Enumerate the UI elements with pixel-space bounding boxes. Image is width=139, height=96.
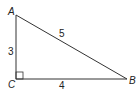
side-label-cb: 4 [59,80,65,91]
vertex-label-a: A [7,6,15,17]
side-label-ab: 5 [59,28,65,39]
triangle-abc [16,15,127,79]
triangle-diagram: A B C 3 5 4 [0,0,139,96]
right-angle-marker [16,72,23,79]
vertex-label-b: B [129,75,136,86]
side-label-ac: 3 [8,46,14,57]
vertex-label-c: C [8,79,16,90]
